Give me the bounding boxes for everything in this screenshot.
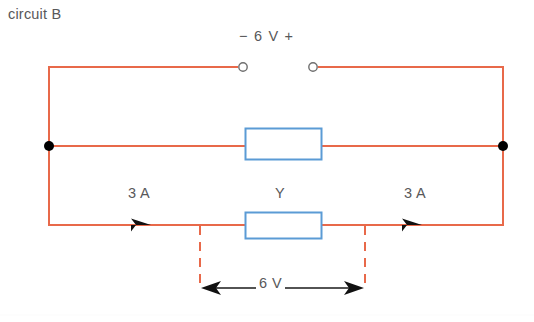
left-branch-current-label: 3 A xyxy=(128,185,150,201)
junction-node-left xyxy=(44,141,54,151)
circuit-schematic-canvas xyxy=(0,0,534,322)
supply-voltage-label: − 6 V + xyxy=(239,28,294,44)
lower-resistor-label: Y xyxy=(275,185,285,201)
dimension-voltage-label: 6 V xyxy=(256,275,285,291)
current-arrowhead-left xyxy=(131,219,151,232)
circuit-diagram-figure: circuit B xyxy=(0,0,534,322)
supply-positive-terminal-icon[interactable] xyxy=(309,63,317,71)
upper-resistor-body xyxy=(246,129,322,160)
lower-resistor-body-y xyxy=(246,213,322,239)
right-branch-current-label: 3 A xyxy=(404,185,426,201)
supply-negative-terminal-icon[interactable] xyxy=(239,63,247,71)
current-arrowhead-right xyxy=(402,219,422,232)
junction-node-right xyxy=(498,141,508,151)
